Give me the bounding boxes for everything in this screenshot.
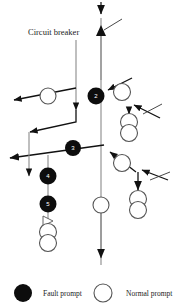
fault-node-label-2: 2: [91, 91, 101, 101]
normal-node: [130, 202, 147, 219]
network-diagram-svg: [0, 0, 173, 307]
normal-node: [40, 88, 56, 104]
fault-node-label-5: 5: [43, 199, 53, 209]
circuit-breaker-icon-right-upper: [143, 104, 162, 114]
circuit-breaker-icon-main: [96, 19, 122, 36]
legend-fault-marker: [14, 284, 32, 302]
normal-node: [121, 125, 138, 142]
normal-node: [93, 197, 109, 213]
diagram-canvas: Circuit breaker Fault prompt Normal prom…: [0, 0, 173, 307]
legend-normal-label: Normal prompt: [126, 289, 172, 298]
normal-node: [114, 84, 131, 101]
legend-normal-marker: [94, 284, 112, 302]
normal-node: [40, 235, 57, 252]
lateral-node3: [10, 145, 104, 158]
fault-node-label-4: 4: [43, 171, 53, 181]
fault-node-label-3: 3: [68, 143, 78, 153]
normal-node: [114, 155, 131, 172]
circuit-breaker-label: Circuit breaker: [28, 27, 79, 37]
legend-fault-label: Fault prompt: [43, 289, 82, 298]
